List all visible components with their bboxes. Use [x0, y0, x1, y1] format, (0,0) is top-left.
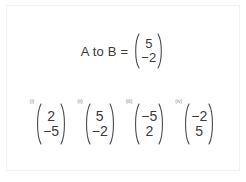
right-parenthesis-icon	[109, 103, 117, 145]
answer-option-entry-top: −5	[141, 109, 157, 124]
answer-option-entry-top: 5	[96, 109, 104, 124]
worksheet-canvas: A to B = 5 −2 (i)	[0, 0, 246, 182]
answer-option-vector: −5 2	[132, 103, 166, 145]
answer-option-vector: 2 −5	[34, 103, 68, 145]
answer-option-ii[interactable]: (ii) 5 −2	[77, 98, 117, 145]
answer-option-label: (iv)	[175, 99, 182, 104]
right-parenthesis-icon	[158, 103, 166, 145]
answer-option-entry-top: −2	[191, 109, 207, 124]
answer-option-entry-bottom: 5	[195, 124, 203, 139]
left-parenthesis-icon	[34, 103, 42, 145]
card-border-right	[239, 5, 240, 171]
answer-options-row: (i) 2 −5 (ii)	[0, 98, 246, 145]
answer-option-entries: 2 −5	[42, 108, 60, 140]
answer-option-entry-bottom: −5	[43, 124, 59, 139]
right-parenthesis-icon	[208, 103, 216, 145]
answer-option-entry-bottom: −2	[92, 124, 108, 139]
question-equation: A to B = 5 −2	[0, 33, 246, 69]
card-border-top	[6, 5, 240, 6]
card-border-bottom	[6, 170, 240, 171]
answer-option-entry-bottom: 2	[145, 124, 153, 139]
answer-option-iv[interactable]: (iv) −2 5	[175, 98, 216, 145]
question-vector: 5 −2	[132, 33, 165, 69]
answer-option-entries: 5 −2	[91, 108, 109, 140]
answer-option-iii[interactable]: (iii) −5 2	[126, 98, 167, 145]
answer-option-entries: −5 2	[140, 108, 158, 140]
question-vector-entry-top: 5	[145, 37, 152, 51]
right-parenthesis-icon	[60, 103, 68, 145]
question-vector-entries: 5 −2	[140, 36, 157, 66]
left-parenthesis-icon	[132, 103, 140, 145]
answer-option-entry-top: 2	[47, 109, 55, 124]
answer-option-label: (iii)	[126, 99, 133, 104]
question-vector-entry-bottom: −2	[141, 51, 156, 65]
left-parenthesis-icon	[182, 103, 190, 145]
equation-label: A to B =	[81, 44, 129, 59]
left-parenthesis-icon	[83, 103, 91, 145]
answer-option-i[interactable]: (i) 2 −5	[30, 98, 68, 145]
answer-option-vector: 5 −2	[83, 103, 117, 145]
answer-option-vector: −2 5	[182, 103, 216, 145]
right-parenthesis-icon	[157, 33, 165, 69]
card-border-left	[6, 5, 7, 171]
answer-option-entries: −2 5	[190, 108, 208, 140]
left-parenthesis-icon	[132, 33, 140, 69]
